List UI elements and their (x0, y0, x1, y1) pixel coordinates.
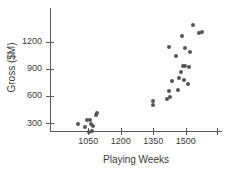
y-axis-tick-label-holder: 900 (14, 64, 42, 73)
x-axis-line (50, 131, 222, 132)
data-point (76, 122, 80, 126)
y-axis-tick-label-holder: 600 (14, 91, 42, 100)
data-point (176, 88, 180, 92)
data-point (91, 124, 95, 128)
data-point (188, 50, 192, 54)
scatter-chart: 3006009001200 1050120013501500 Gross ($M… (0, 0, 232, 178)
y-axis-tick-label-holder: 1200 (14, 37, 42, 46)
data-point (170, 79, 174, 83)
data-point (191, 23, 195, 27)
y-axis-tick (46, 42, 54, 43)
x-axis-tick-end (217, 128, 218, 135)
data-point (151, 103, 155, 107)
y-axis-tick (46, 96, 54, 97)
data-point (167, 89, 171, 93)
x-axis-tick (153, 128, 154, 135)
x-axis-tick (186, 128, 187, 135)
y-axis-tick-label: 1200 (14, 37, 42, 46)
x-axis-title: Playing Weeks (50, 154, 222, 165)
data-point (88, 118, 92, 122)
data-point (151, 99, 155, 103)
data-point (83, 125, 87, 129)
data-point (186, 82, 190, 86)
data-point (187, 65, 191, 69)
data-point (168, 95, 172, 99)
x-axis-tick (121, 128, 122, 135)
y-axis-title: Gross ($M) (6, 38, 17, 98)
data-point (174, 54, 178, 58)
data-point (179, 70, 183, 74)
y-axis-tick-label-holder: 300 (14, 119, 42, 128)
data-point (95, 111, 99, 115)
data-point (167, 45, 171, 49)
y-axis-tick-label: 600 (14, 91, 42, 100)
y-axis-tick-label: 300 (14, 119, 42, 128)
data-point (180, 34, 184, 38)
x-axis-tick-label: 1500 (166, 137, 206, 146)
data-point (183, 46, 187, 50)
y-axis-line (50, 8, 51, 132)
y-axis-tick (46, 123, 54, 124)
data-point (177, 76, 181, 80)
data-point (200, 30, 204, 34)
y-axis-tick (46, 69, 54, 70)
y-axis-tick-label: 900 (14, 64, 42, 73)
data-point (90, 129, 94, 133)
data-point (182, 78, 186, 82)
